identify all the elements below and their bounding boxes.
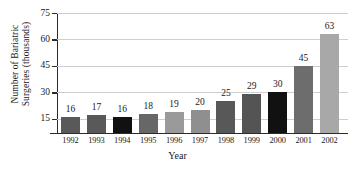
bar xyxy=(139,114,158,133)
y-axis-tick-label: 75 xyxy=(38,9,50,19)
y-axis-tick xyxy=(52,92,57,93)
y-axis-tick-label: 30 xyxy=(38,88,50,98)
bar xyxy=(61,117,80,133)
x-axis-title: Year xyxy=(0,150,355,161)
bar-value-label: 63 xyxy=(315,22,345,32)
bar-value-label: 20 xyxy=(185,98,215,108)
bar xyxy=(113,117,132,133)
y-axis-tick-label: 60 xyxy=(38,35,50,45)
bar xyxy=(320,34,339,133)
bar-value-label: 30 xyxy=(263,80,293,90)
y-axis-tick xyxy=(52,39,57,40)
y-axis-tick xyxy=(52,13,57,14)
y-axis-title: Number of Bariatric Surgeries (thousands… xyxy=(0,0,42,134)
x-axis-tick-label: 2002 xyxy=(315,136,345,145)
bar xyxy=(165,112,184,133)
gridline xyxy=(57,13,348,14)
gridline xyxy=(57,39,348,40)
bar xyxy=(216,101,235,133)
y-axis-tick-label: 15 xyxy=(38,114,50,124)
bar xyxy=(191,110,210,133)
bar-value-label: 45 xyxy=(289,54,319,64)
bar-chart: Number of Bariatric Surgeries (thousands… xyxy=(0,0,355,171)
bar xyxy=(294,66,313,133)
x-axis-line xyxy=(50,133,348,134)
bar xyxy=(87,115,106,133)
bar xyxy=(268,92,287,133)
y-axis-tick-label: 45 xyxy=(38,61,50,71)
y-axis-tick xyxy=(52,119,57,120)
y-axis-tick xyxy=(52,66,57,67)
bar xyxy=(242,94,261,133)
